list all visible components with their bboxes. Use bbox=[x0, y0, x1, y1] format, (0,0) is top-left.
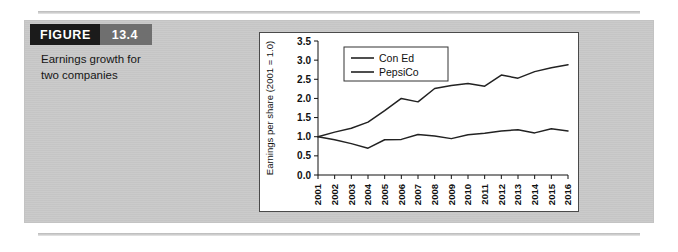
x-axis-tick-label: 2012 bbox=[496, 184, 507, 205]
x-axis-tick-label: 2016 bbox=[562, 184, 573, 205]
x-axis-tick-label: 2009 bbox=[446, 184, 457, 205]
y-axis-tick-label: 1.0 bbox=[297, 131, 311, 142]
figure-badge-number: 13.4 bbox=[100, 24, 152, 45]
y-axis-tick-label: 1.5 bbox=[297, 112, 311, 123]
x-axis-tick-label: 2006 bbox=[396, 184, 407, 205]
x-axis-tick-label: 2010 bbox=[462, 184, 473, 205]
series-line-pepsico bbox=[318, 129, 568, 149]
y-axis-tick-label: 3.0 bbox=[297, 55, 311, 66]
chart-container: 0.00.51.01.52.02.53.03.5Earnings per sha… bbox=[259, 32, 579, 212]
x-axis-tick-label: 2007 bbox=[412, 184, 423, 205]
x-axis-tick-label: 2003 bbox=[346, 184, 357, 205]
legend-label-con-ed: Con Ed bbox=[379, 52, 414, 64]
page-rule-bottom bbox=[38, 233, 640, 236]
x-axis-tick-label: 2013 bbox=[512, 184, 523, 205]
page-rule-top bbox=[38, 11, 640, 14]
figure-panel: FIGURE 13.4 Earnings growth for two comp… bbox=[24, 20, 654, 223]
figure-page: FIGURE 13.4 Earnings growth for two comp… bbox=[0, 0, 678, 252]
y-axis-tick-label: 2.5 bbox=[297, 74, 311, 85]
y-axis-tick-label: 2.0 bbox=[297, 93, 311, 104]
figure-badge: FIGURE 13.4 bbox=[30, 24, 152, 45]
line-chart: 0.00.51.01.52.02.53.03.5Earnings per sha… bbox=[260, 33, 578, 211]
x-axis-tick-label: 2014 bbox=[529, 183, 540, 205]
x-axis-tick-label: 2008 bbox=[429, 184, 440, 205]
x-axis-tick-label: 2001 bbox=[312, 183, 323, 205]
legend-label-pepsico: PepsiCo bbox=[379, 66, 419, 78]
figure-caption-line-2: two companies bbox=[41, 68, 221, 84]
x-axis-tick-label: 2015 bbox=[546, 183, 557, 205]
y-axis-tick-label: 0.5 bbox=[297, 150, 311, 161]
y-axis-title: Earnings per share (2001 = 1.0) bbox=[264, 41, 275, 175]
y-axis-tick-label: 3.5 bbox=[297, 36, 311, 47]
x-axis-tick-label: 2005 bbox=[379, 183, 390, 205]
figure-caption-line-1: Earnings growth for bbox=[41, 52, 221, 68]
y-axis-tick-label: 0.0 bbox=[297, 170, 311, 181]
x-axis-tick-label: 2002 bbox=[329, 184, 340, 205]
x-axis-tick-label: 2004 bbox=[362, 183, 373, 205]
x-axis-tick-label: 2011 bbox=[479, 183, 490, 204]
figure-caption: Earnings growth for two companies bbox=[41, 52, 221, 83]
figure-badge-label: FIGURE bbox=[30, 24, 100, 45]
